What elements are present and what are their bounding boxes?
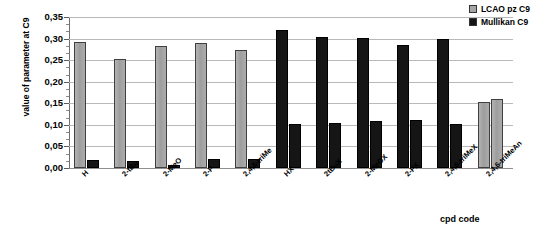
y-axis-tick-label: 0,15 — [17, 98, 63, 108]
y-axis-minor-tick — [66, 24, 69, 25]
x-axis-tick-label: H — [80, 168, 90, 178]
y-axis-tick-label: 0,25 — [17, 55, 63, 65]
y-axis-minor-tick — [66, 31, 69, 32]
bar-chart: value of parameter at C9 LCAO pz C9 Mull… — [0, 0, 534, 236]
y-axis-tick-label: 0,20 — [17, 77, 63, 87]
y-axis-tick — [64, 17, 69, 18]
bar — [276, 30, 288, 168]
y-axis-tick — [64, 168, 69, 169]
bar — [357, 38, 369, 168]
legend-label-lcao: LCAO pz C9 — [481, 4, 530, 14]
y-axis-tick-label: 0,10 — [17, 120, 63, 130]
y-axis-tick — [64, 82, 69, 83]
bar — [316, 37, 328, 168]
bar — [114, 59, 126, 168]
y-axis-tick-label: 0,35 — [17, 12, 63, 22]
gridline — [69, 17, 513, 18]
y-axis-minor-tick — [66, 67, 69, 68]
y-axis-line — [69, 17, 70, 168]
y-axis-minor-tick — [66, 154, 69, 155]
y-axis-tick-label: 0,00 — [17, 163, 63, 173]
bar — [155, 46, 167, 168]
legend-item-lcao: LCAO pz C9 — [469, 4, 530, 14]
y-axis-minor-tick — [66, 75, 69, 76]
y-axis-minor-tick — [66, 118, 69, 119]
y-axis-tick-label: 0,05 — [17, 141, 63, 151]
bar — [74, 42, 86, 168]
y-axis-tick — [64, 103, 69, 104]
bar — [289, 124, 301, 168]
y-axis-tick — [64, 125, 69, 126]
y-axis-minor-tick — [66, 139, 69, 140]
y-axis-minor-tick — [66, 89, 69, 90]
bar — [397, 45, 409, 168]
y-axis-minor-tick — [66, 132, 69, 133]
y-axis-minor-tick — [66, 53, 69, 54]
bar — [410, 120, 422, 168]
bar — [437, 39, 449, 168]
plot-area — [69, 17, 513, 168]
y-axis-minor-tick — [66, 161, 69, 162]
bar — [478, 102, 490, 168]
bar — [195, 43, 207, 168]
y-axis-minor-tick — [66, 110, 69, 111]
y-axis-minor-tick — [66, 96, 69, 97]
y-axis-tick-label: 0,30 — [17, 34, 63, 44]
y-axis-tick — [64, 39, 69, 40]
legend-swatch-icon-lcao — [469, 5, 477, 13]
bar — [235, 50, 247, 168]
y-axis-tick — [64, 146, 69, 147]
y-axis-tick — [64, 60, 69, 61]
y-axis-minor-tick — [66, 46, 69, 47]
x-axis-title: cpd code — [440, 214, 480, 224]
bar — [87, 160, 99, 168]
